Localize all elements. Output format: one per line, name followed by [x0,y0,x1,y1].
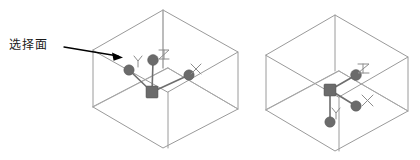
left-cube-bottom-face[interactable] [93,68,238,148]
right-cube-top-face[interactable] [266,15,408,97]
right-gizmo-ball-x[interactable] [351,101,361,111]
diagram-graphics [0,0,420,160]
right-cube-gizmo[interactable] [324,64,373,127]
right-axis-label-x-icon [362,95,373,106]
left-gizmo-center-handle[interactable] [146,86,158,98]
left-gizmo-ball-z[interactable] [148,55,159,66]
left-gizmo-ball-x[interactable] [184,70,194,80]
left-axis-label-y-icon [134,56,142,67]
left-cube[interactable] [93,10,238,148]
right-axis-label-z-icon [358,64,369,73]
right-gizmo-center-handle[interactable] [324,84,336,96]
right-gizmo-ball-y[interactable] [325,117,335,127]
left-cube-top-face[interactable] [93,10,238,92]
diagram-canvas: 选择面 [0,0,420,160]
callout-arrow-head [112,53,123,61]
callout-arrow-shaft [64,47,118,56]
left-gizmo-ball-y[interactable] [124,65,134,75]
select-face-label: 选择面 [9,38,48,53]
left-axis-label-z-icon [159,50,169,59]
right-cube[interactable] [266,15,408,151]
left-cube-inner-diag-b [168,68,238,109]
left-axis-label-x-icon [191,64,201,74]
